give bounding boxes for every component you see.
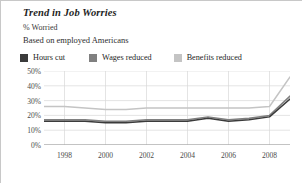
x-axis-tick-label: 2000 [98,151,113,160]
x-axis-tick-label: 2004 [180,151,195,160]
y-axis-tick-label: 30% [27,96,41,105]
x-axis-tick-label: 2002 [139,151,154,160]
line-chart-svg [44,71,290,145]
legend-swatch-hours-cut [20,54,28,62]
legend-label-hours-cut: Hours cut [33,53,65,62]
x-axis-tick-label: 2008 [262,151,277,160]
y-axis-tick-label: 50% [27,67,41,76]
y-axis-ticks: 0%10%20%30%40%50% [17,67,41,145]
x-axis-tick-label: 1998 [57,151,72,160]
y-axis-tick-label: 20% [27,111,41,120]
legend-label-wages-reduced: Wages reduced [102,53,152,62]
chart-subtitle: Based on employed Americans [23,35,129,45]
plot-canvas [44,71,290,145]
legend-item-wages-reduced: Wages reduced [89,53,152,62]
chart-legend: Hours cut Wages reduced Benefits reduced [20,53,242,62]
legend-swatch-wages-reduced [89,54,97,62]
legend-swatch-benefits-reduced [174,54,182,62]
y-axis-tick-label: 0% [31,141,41,150]
x-axis-tick-label: 2006 [221,151,236,160]
legend-item-benefits-reduced: Benefits reduced [174,53,242,62]
series-line [44,77,290,110]
y-axis-unit-label: % Worried [23,23,58,32]
page-title: Trend in Job Worries [23,7,117,18]
plot-region: 0%10%20%30%40%50% 1998200020022004200620… [1,67,302,162]
legend-item-hours-cut: Hours cut [20,53,65,62]
y-axis-tick-label: 40% [27,81,41,90]
legend-label-benefits-reduced: Benefits reduced [187,53,242,62]
x-axis-ticks: 199820002002200420062008 [44,151,290,165]
chart-figure: Trend in Job Worries % Worried Based on … [0,0,302,183]
y-axis-tick-label: 10% [27,126,41,135]
